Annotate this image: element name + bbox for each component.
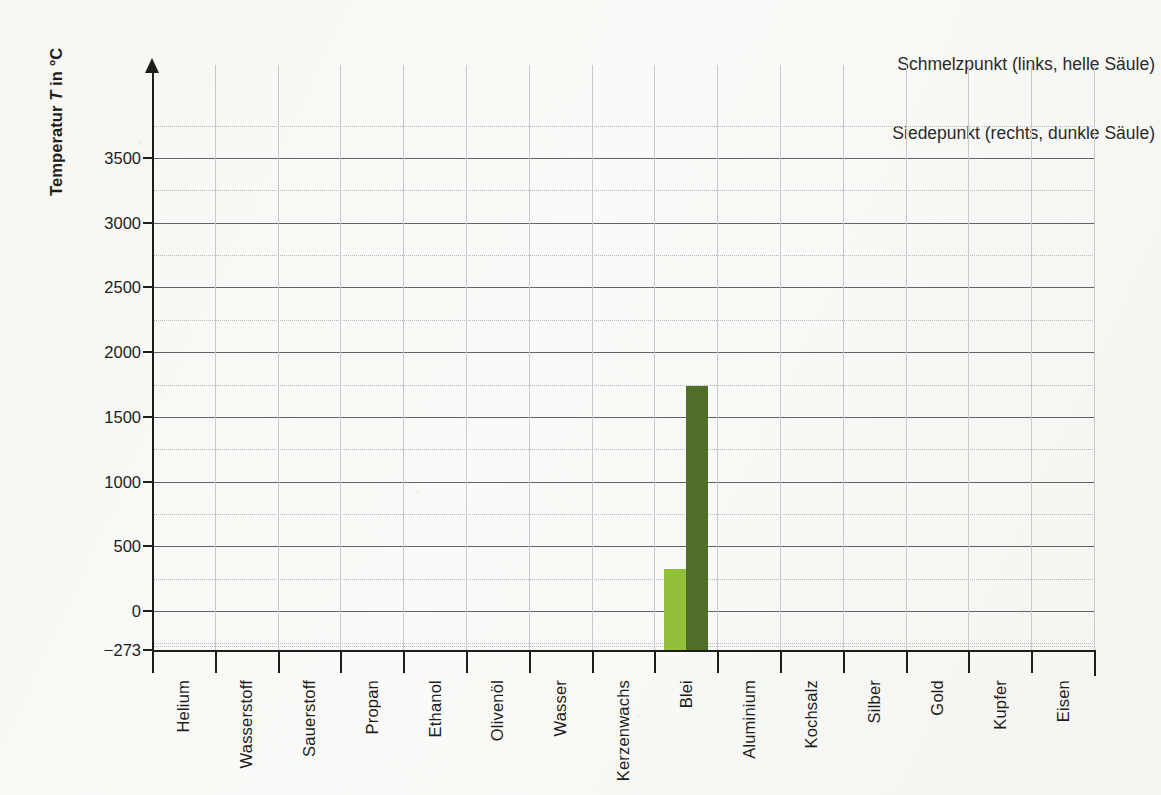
x-axis-tick-mark: [340, 651, 342, 673]
x-axis-category-label-ethanol: Ethanol: [426, 680, 445, 737]
bar-blei-melting-point: [664, 569, 686, 650]
x-axis-category-label-gold: Gold: [928, 680, 947, 716]
x-axis-category-label-sauerstoff: Sauerstoff: [300, 680, 319, 757]
x-axis-tick-mark: [843, 651, 845, 673]
gridline-major: [152, 352, 1095, 353]
x-axis-category-label-propan: Propan: [363, 680, 382, 734]
x-axis-category-label-eisen: Eisen: [1054, 680, 1073, 722]
x-axis-tick-mark: [654, 651, 656, 673]
y-axis-tick-label: 2000: [61, 343, 141, 362]
y-axis-tick-mark: [143, 610, 153, 612]
y-axis-tick-label: 500: [61, 537, 141, 556]
plot-area: [152, 65, 1095, 650]
gridline-minor: [152, 579, 1095, 580]
x-axis-tick-mark: [780, 651, 782, 673]
bar-blei-boiling-point: [686, 386, 708, 650]
x-axis-tick-mark: [529, 651, 531, 673]
gridline-vertical: [466, 65, 467, 650]
x-axis-category-label-silber: Silber: [865, 680, 884, 723]
y-axis-tick-mark: [143, 545, 153, 547]
gridline-minor: [152, 255, 1095, 256]
x-axis-category-label-wasser: Wasser: [551, 680, 570, 737]
x-axis-category-label-wasserstoff: Wasserstoff: [237, 680, 256, 768]
y-axis-tick-label: 1000: [61, 472, 141, 491]
x-axis-category-label-aluminium: Aluminium: [740, 680, 759, 759]
x-axis-category-label-kupfer: Kupfer: [991, 680, 1010, 730]
gridline-major: [152, 417, 1095, 418]
gridline-minor: [152, 449, 1095, 450]
x-axis-category-label-helium: Helium: [174, 680, 193, 733]
y-axis-tick-label: 1500: [61, 407, 141, 426]
gridline-vertical: [403, 65, 404, 650]
y-axis-tick-mark: [143, 222, 153, 224]
gridline-minor: [152, 385, 1095, 386]
x-axis-category-label-kerzenwachs: Kerzenwachs: [614, 680, 633, 781]
gridline-major: [152, 482, 1095, 483]
gridline-vertical: [1094, 65, 1095, 650]
x-axis-category-label-blei: Blei: [677, 680, 696, 708]
x-axis-tick-mark: [717, 651, 719, 673]
gridline-minor: [152, 643, 1095, 644]
gridline-major: [152, 223, 1095, 224]
gridline-vertical: [968, 65, 969, 650]
gridline-minor: [152, 126, 1095, 127]
x-axis-tick-mark: [1031, 651, 1033, 673]
y-axis-tick-label: −273: [61, 641, 141, 660]
y-axis-line: [152, 65, 154, 651]
y-axis-tick-label: 3500: [61, 149, 141, 168]
gridline-vertical: [780, 65, 781, 650]
gridline-major: [152, 287, 1095, 288]
x-axis-tick-mark: [968, 651, 970, 673]
x-axis-tick-mark: [906, 651, 908, 673]
gridline-vertical: [1031, 65, 1032, 650]
gridline-minor: [152, 320, 1095, 321]
gridline-vertical: [592, 65, 593, 650]
y-axis-tick-mark: [143, 157, 153, 159]
x-axis-tick-mark: [403, 651, 405, 673]
gridline-vertical: [906, 65, 907, 650]
x-axis-category-label-kochsalz: Kochsalz: [802, 680, 821, 749]
y-axis-title-suffix: in °C: [47, 48, 65, 91]
x-axis-tick-mark: [592, 651, 594, 673]
y-axis-tick-mark: [143, 286, 153, 288]
x-axis-tick-mark: [215, 651, 217, 673]
x-axis-line: [152, 650, 1096, 652]
gridline-vertical: [843, 65, 844, 650]
temperature-bar-chart: Schmelzpunkt (links, helle Säule) Siedep…: [0, 0, 1161, 795]
y-axis-tick-mark: [143, 416, 153, 418]
gridline-vertical: [278, 65, 279, 650]
x-axis-end-tick: [1094, 650, 1096, 676]
gridline-vertical: [654, 65, 655, 650]
gridline-minor: [152, 514, 1095, 515]
y-axis-tick-label: 3000: [61, 213, 141, 232]
gridline-major: [152, 611, 1095, 612]
y-axis-arrow-icon: [145, 58, 159, 73]
gridline-major: [152, 158, 1095, 159]
y-axis-tick-mark: [143, 481, 153, 483]
gridline-major: [152, 546, 1095, 547]
gridline-baseline: [152, 646, 1095, 647]
y-axis-tick-label: 2500: [61, 278, 141, 297]
gridline-vertical: [717, 65, 718, 650]
x-axis-tick-mark: [152, 651, 154, 673]
y-axis-tick-label: 0: [61, 602, 141, 621]
gridline-minor: [152, 190, 1095, 191]
gridline-vertical: [340, 65, 341, 650]
x-axis-category-label-oliven-l: Olivenöl: [488, 680, 507, 741]
y-axis-tick-mark: [143, 351, 153, 353]
x-axis-tick-mark: [278, 651, 280, 673]
gridline-vertical: [215, 65, 216, 650]
y-axis-title-symbol: T: [47, 91, 65, 101]
gridline-vertical: [529, 65, 530, 650]
x-axis-tick-mark: [466, 651, 468, 673]
